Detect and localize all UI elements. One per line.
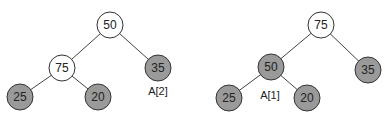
heap-diagram: 50 75 35 25 20 A[2] 75 50 bbox=[0, 0, 392, 118]
node-value: 35 bbox=[151, 61, 165, 75]
tree-node-right: 35 bbox=[355, 57, 381, 83]
node-value: 25 bbox=[13, 90, 27, 104]
tree-node-root: 50 bbox=[97, 12, 123, 38]
tree-after: 75 50 35 25 20 A[1] bbox=[216, 12, 381, 111]
node-value: 35 bbox=[361, 63, 375, 77]
tree-node-root: 75 bbox=[308, 12, 334, 38]
node-value: 50 bbox=[264, 60, 278, 74]
tree-node-left: 50 bbox=[258, 54, 284, 80]
tree-node-left: 75 bbox=[49, 55, 75, 81]
tree-node-left-right: 20 bbox=[294, 85, 320, 111]
node-value: 20 bbox=[300, 91, 314, 105]
node-value: 25 bbox=[222, 91, 236, 105]
tree-node-left-left: 25 bbox=[7, 84, 33, 110]
tree-node-left-right: 20 bbox=[85, 84, 111, 110]
node-value: 75 bbox=[314, 18, 328, 32]
array-index-label: A[1] bbox=[260, 89, 280, 101]
tree-before: 50 75 35 25 20 A[2] bbox=[7, 12, 171, 110]
node-value: 50 bbox=[103, 18, 117, 32]
array-index-label: A[2] bbox=[148, 85, 168, 97]
node-value: 75 bbox=[55, 61, 69, 75]
tree-node-left-left: 25 bbox=[216, 85, 242, 111]
node-value: 20 bbox=[91, 90, 105, 104]
tree-node-right: 35 bbox=[145, 55, 171, 81]
